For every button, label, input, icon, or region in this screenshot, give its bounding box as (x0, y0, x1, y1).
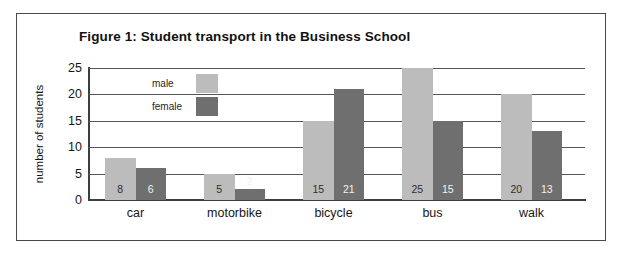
gridline (88, 68, 585, 69)
bar-value-label: 15 (303, 184, 334, 195)
y-axis-tick-label: 25 (52, 61, 82, 75)
legend-label: male (152, 78, 196, 89)
figure-root: Figure 1: Student transport in the Busin… (0, 0, 624, 257)
bar-value-label: 8 (105, 184, 136, 195)
bar-value-label: 21 (334, 184, 365, 195)
bar-value-label: 13 (532, 184, 563, 195)
bar-motorbike-female: 2 (235, 189, 266, 200)
bar-value-label: 6 (136, 184, 167, 195)
bar-bus-female: 15 (433, 121, 464, 200)
x-axis-label-car: car (105, 206, 166, 220)
x-axis-label-walk: walk (501, 206, 562, 220)
legend-label: female (152, 101, 196, 112)
y-axis-tick-label: 0 (52, 193, 82, 207)
bar-walk-female: 13 (532, 131, 563, 200)
bar-car-male: 8 (105, 158, 136, 200)
bar-car-female: 6 (136, 168, 167, 200)
y-axis-tick-label: 10 (52, 140, 82, 154)
y-axis-tick-label: 20 (52, 87, 82, 101)
y-axis-tick-label: 15 (52, 114, 82, 128)
chart-legend: malefemale (152, 72, 236, 118)
bar-bus-male: 25 (402, 68, 433, 200)
bar-bicycle-male: 15 (303, 121, 334, 200)
bar-value-label: 5 (204, 184, 235, 195)
legend-item-male: male (152, 72, 236, 95)
x-axis-label-motorbike: motorbike (204, 206, 265, 220)
bar-walk-male: 20 (501, 94, 532, 200)
y-axis-tick-labels: 0510152025 (52, 68, 82, 200)
bar-value-label: 20 (501, 184, 532, 195)
y-axis-tick-label: 5 (52, 167, 82, 181)
y-axis-title: number of students (33, 59, 45, 209)
legend-swatch-female (196, 97, 218, 116)
bar-value-label: 15 (433, 184, 464, 195)
chart-title: Figure 1: Student transport in the Busin… (79, 29, 410, 44)
x-axis-label-bus: bus (402, 206, 463, 220)
bar-motorbike-male: 5 (204, 174, 235, 200)
bar-value-label: 25 (402, 184, 433, 195)
legend-item-female: female (152, 95, 236, 118)
x-axis-label-bicycle: bicycle (303, 206, 364, 220)
bar-value-label: 2 (235, 176, 266, 187)
bar-bicycle-female: 21 (334, 89, 365, 200)
legend-swatch-male (196, 74, 218, 93)
